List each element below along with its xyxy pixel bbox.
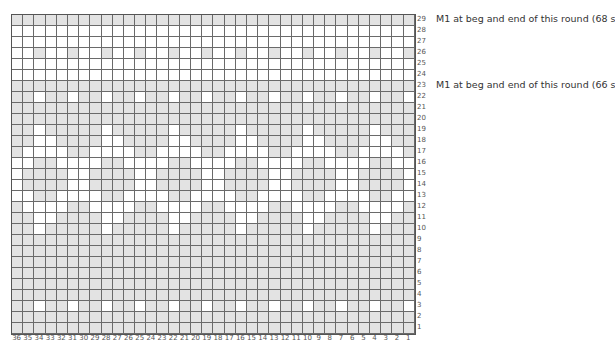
chart-cell <box>359 268 370 279</box>
chart-cell <box>68 48 79 59</box>
chart-cell <box>68 202 79 213</box>
chart-cell <box>68 81 79 92</box>
chart-cell <box>348 180 359 191</box>
chart-cell <box>12 301 23 312</box>
chart-cell <box>336 290 347 301</box>
chart-cell <box>269 246 280 257</box>
chart-cell <box>225 103 236 114</box>
chart-cell <box>191 191 202 202</box>
chart-cell <box>191 169 202 180</box>
chart-cell <box>157 48 168 59</box>
chart-cell <box>225 235 236 246</box>
chart-cell <box>258 224 269 235</box>
chart-cell <box>90 158 101 169</box>
chart-cell <box>404 158 415 169</box>
chart-cell <box>46 246 57 257</box>
chart-cell <box>146 257 157 268</box>
chart-cell <box>381 180 392 191</box>
chart-cell <box>157 268 168 279</box>
chart-cell <box>247 48 258 59</box>
chart-cell <box>392 213 403 224</box>
chart-cell <box>236 15 247 26</box>
chart-cell <box>135 48 146 59</box>
chart-cell <box>57 257 68 268</box>
chart-cell <box>348 59 359 70</box>
chart-cell <box>225 279 236 290</box>
chart-cell <box>124 26 135 37</box>
chart-cell <box>236 92 247 103</box>
chart-cell <box>102 81 113 92</box>
chart-cell <box>113 224 124 235</box>
chart-cell <box>34 92 45 103</box>
chart-cell <box>23 136 34 147</box>
column-label: 26 <box>123 334 134 342</box>
chart-cell <box>68 15 79 26</box>
chart-cell <box>269 279 280 290</box>
chart-cell <box>146 246 157 257</box>
chart-cell <box>12 147 23 158</box>
chart-cell <box>146 323 157 334</box>
chart-cell <box>169 103 180 114</box>
chart-cell <box>370 213 381 224</box>
chart-cell <box>225 246 236 257</box>
chart-cell <box>102 301 113 312</box>
chart-cell <box>281 191 292 202</box>
chart-cell <box>68 114 79 125</box>
chart-cell <box>404 59 415 70</box>
chart-cell <box>303 235 314 246</box>
chart-cell <box>191 246 202 257</box>
column-label: 1 <box>403 334 414 342</box>
chart-cell <box>79 92 90 103</box>
chart-cell <box>202 301 213 312</box>
chart-cell <box>381 246 392 257</box>
chart-cell <box>325 257 336 268</box>
chart-cell <box>146 235 157 246</box>
row-label: 21 <box>417 102 426 113</box>
chart-cell <box>381 114 392 125</box>
chart-cell <box>79 169 90 180</box>
chart-cell <box>247 213 258 224</box>
chart-cell <box>404 147 415 158</box>
chart-cell <box>46 301 57 312</box>
chart-cell <box>12 180 23 191</box>
chart-cell <box>325 180 336 191</box>
chart-cell <box>202 180 213 191</box>
chart-cell <box>68 26 79 37</box>
chart-cell <box>392 15 403 26</box>
chart-cell <box>23 48 34 59</box>
chart-cell <box>303 290 314 301</box>
chart-cell <box>359 125 370 136</box>
chart-cell <box>79 235 90 246</box>
chart-cell <box>325 202 336 213</box>
chart-cell <box>269 268 280 279</box>
chart-cell <box>303 158 314 169</box>
chart-cell <box>113 323 124 334</box>
chart-cell <box>325 301 336 312</box>
chart-cell <box>359 158 370 169</box>
chart-cell <box>292 180 303 191</box>
chart-cell <box>359 312 370 323</box>
chart-cell <box>180 125 191 136</box>
column-label: 29 <box>89 334 100 342</box>
chart-cell <box>23 224 34 235</box>
chart-cell <box>169 70 180 81</box>
chart-cell <box>336 180 347 191</box>
row-label: 24 <box>417 69 426 80</box>
chart-cell <box>392 92 403 103</box>
chart-cell <box>225 191 236 202</box>
chart-cell <box>348 257 359 268</box>
chart-cell <box>113 290 124 301</box>
chart-cell <box>191 224 202 235</box>
chart-cell <box>348 301 359 312</box>
chart-cell <box>381 70 392 81</box>
chart-cell <box>180 246 191 257</box>
chart-cell <box>269 15 280 26</box>
chart-cell <box>213 224 224 235</box>
chart-cell <box>225 70 236 81</box>
chart-cell <box>381 224 392 235</box>
chart-cell <box>325 136 336 147</box>
chart-cell <box>46 235 57 246</box>
chart-cell <box>46 202 57 213</box>
chart-cell <box>281 257 292 268</box>
chart-cell <box>180 323 191 334</box>
